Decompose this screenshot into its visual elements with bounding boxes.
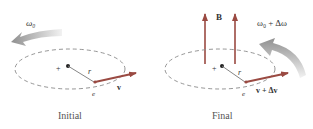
final-panel: B ω₀ + Δω + r e v + Δv Final	[165, 12, 306, 121]
caption-initial: Initial	[58, 110, 82, 121]
radius-label: r	[88, 67, 92, 76]
velocity-arrow	[246, 73, 288, 82]
initial-panel: ω₀ + r e v Initial	[11, 18, 136, 121]
center-mark: +	[56, 64, 61, 73]
diagram-canvas: ω₀ + r e v Initial B ω₀ + Δω + r	[0, 0, 313, 129]
radius-line	[222, 66, 245, 82]
omega-label: ω₀	[26, 18, 35, 28]
charge-label: e	[92, 90, 95, 98]
radius-label: r	[238, 68, 242, 77]
orbit-ellipse	[15, 49, 125, 89]
velocity-label: v + Δv	[256, 86, 278, 95]
charge-label: e	[242, 90, 245, 98]
field-label: B	[216, 12, 222, 22]
rotation-arrow-icon	[11, 29, 62, 46]
center-mark: +	[212, 64, 217, 73]
velocity-label: v	[117, 83, 121, 92]
caption-final: Final	[212, 110, 233, 121]
orbit-ellipse	[165, 49, 275, 89]
omega-label: ω₀ + Δω	[257, 18, 287, 28]
